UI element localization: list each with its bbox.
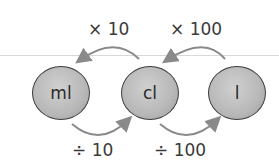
node-label: ml [50,83,71,103]
bottom-label-div100: ÷ 100 [154,140,206,160]
node-label: cl [143,83,157,103]
top-label-x100: × 100 [170,19,222,39]
node-l: l [208,66,266,120]
node-label: l [235,83,240,103]
top-label-x10: × 10 [88,19,129,39]
node-ml: ml [32,66,90,120]
node-cl: cl [121,66,179,120]
bottom-label-div10: ÷ 10 [72,140,113,160]
